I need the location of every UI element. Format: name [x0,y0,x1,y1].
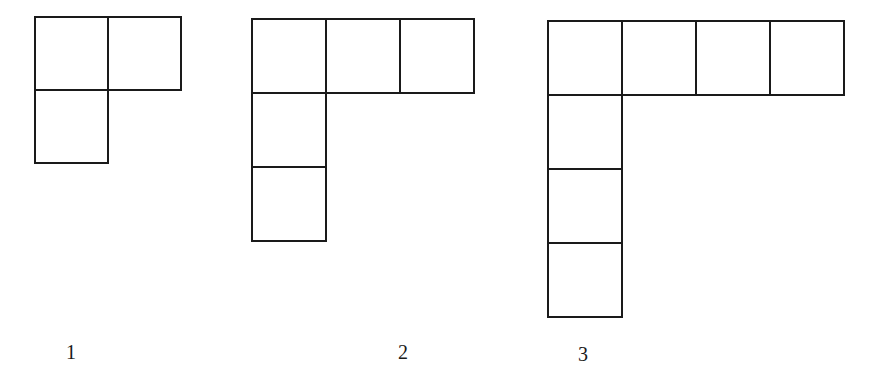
square-cell [547,242,623,318]
figure-label-3: 3 [578,344,588,364]
figure-label-1: 1 [66,342,76,362]
square-cell [547,20,623,96]
square-cell [107,16,182,91]
square-cell [547,94,623,170]
square-cell [251,92,327,168]
square-cell [547,168,623,244]
square-cell [621,20,697,96]
square-cell [34,16,109,91]
square-cell [769,20,845,96]
square-cell [695,20,771,96]
square-cell [251,18,327,94]
square-cell [399,18,475,94]
square-cell [34,89,109,164]
square-cell [325,18,401,94]
square-cell [251,166,327,242]
figure-label-2: 2 [398,342,408,362]
